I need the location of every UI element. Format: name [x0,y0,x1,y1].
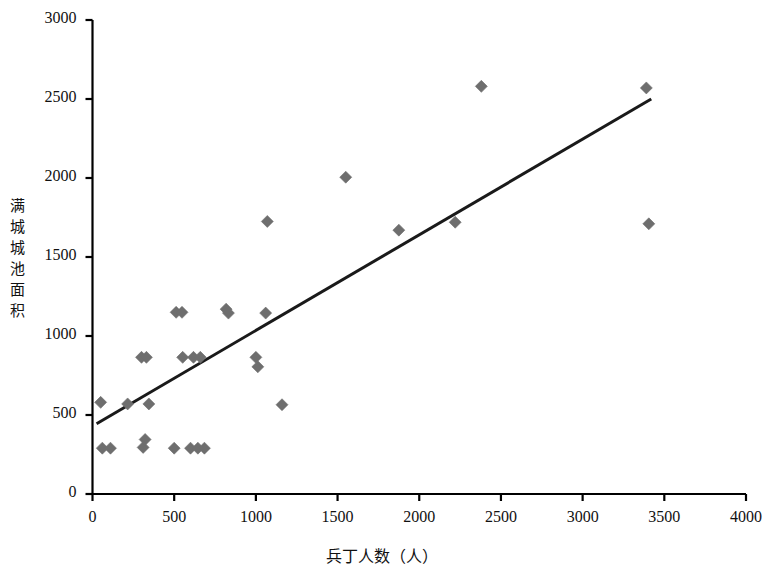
data-point-marker [198,442,210,454]
data-point-marker [640,82,652,94]
trendline [97,99,652,424]
data-point-marker [261,215,273,227]
data-point-marker [475,80,487,92]
trendline-segment [97,99,652,424]
data-point-marker [449,216,461,228]
data-point-marker [260,307,272,319]
data-point-marker [104,442,116,454]
data-point-marker [250,351,262,363]
data-point-marker [143,398,155,410]
data-point-marker [177,351,189,363]
data-points [95,80,655,454]
data-point-marker [340,171,352,183]
data-point-marker [276,399,288,411]
data-point-marker [393,224,405,236]
scatter-chart: 满 城 城 池 面 积 兵丁人数（人） 05001000150020002500… [0,0,763,573]
plot-area [0,0,763,573]
data-point-marker [252,361,264,373]
data-point-marker [643,218,655,230]
data-point-marker [95,396,107,408]
data-point-marker [168,442,180,454]
